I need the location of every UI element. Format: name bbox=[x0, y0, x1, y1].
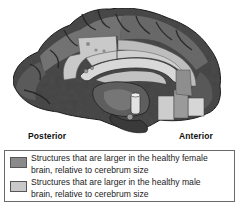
legend-text-male: Structures that are larger in the health… bbox=[31, 177, 231, 200]
male-swatch bbox=[10, 181, 27, 192]
legend-female-line1: Structures that are larger in the health… bbox=[31, 153, 231, 165]
legend-female-line2: brain, relative to cerebrum size bbox=[31, 165, 231, 177]
brain-sagittal-image bbox=[0, 0, 241, 140]
brain-figure bbox=[0, 0, 241, 140]
legend-item-male: Structures that are larger in the health… bbox=[5, 177, 234, 201]
legend-text-female: Structures that are larger in the health… bbox=[31, 153, 231, 176]
male-region-frontal-2 bbox=[188, 98, 204, 116]
legend-box: Structures that are larger in the health… bbox=[4, 150, 235, 202]
legend-male-line1: Structures that are larger in the health… bbox=[31, 177, 231, 189]
female-swatch bbox=[10, 157, 27, 168]
legend-male-line2: brain, relative to cerebrum size bbox=[31, 189, 231, 201]
legend-item-female: Structures that are larger in the health… bbox=[5, 153, 234, 177]
posterior-label: Posterior bbox=[28, 131, 66, 141]
anterior-label: Anterior bbox=[179, 131, 213, 141]
male-region-frontal-1 bbox=[158, 96, 174, 120]
